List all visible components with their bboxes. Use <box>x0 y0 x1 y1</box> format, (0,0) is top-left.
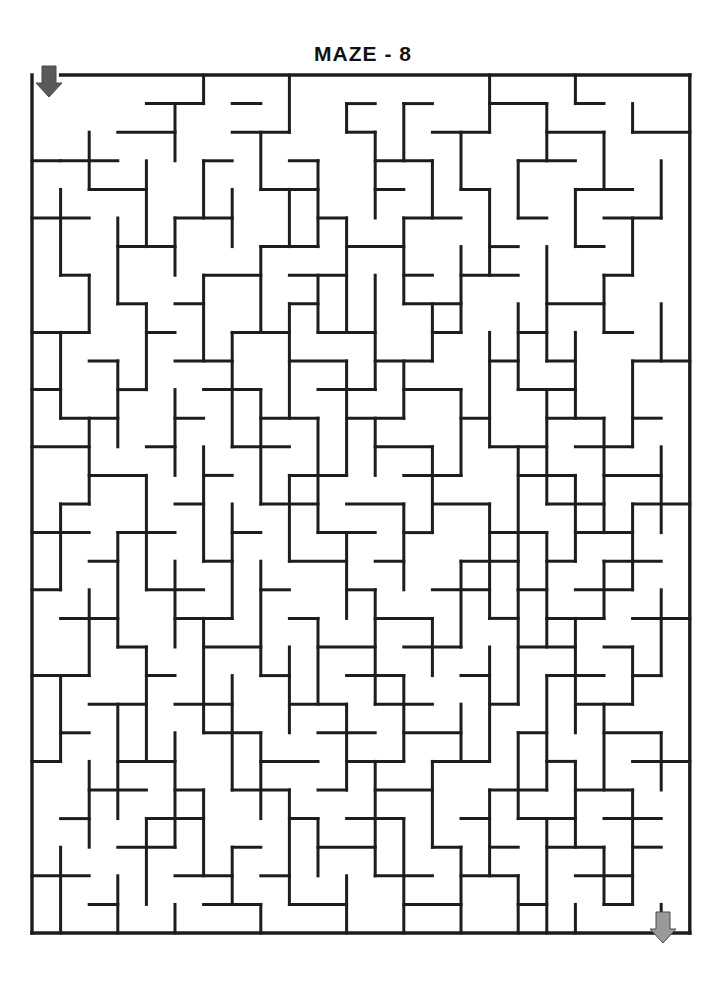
maze-canvas <box>0 0 726 985</box>
exit-arrow-shape <box>650 912 676 943</box>
exit-arrow-icon <box>650 912 676 943</box>
maze-walls <box>32 75 690 933</box>
entrance-arrow-shape <box>36 66 62 97</box>
entrance-arrow-icon <box>36 66 62 97</box>
maze-page: MAZE - 8 <box>0 0 726 985</box>
